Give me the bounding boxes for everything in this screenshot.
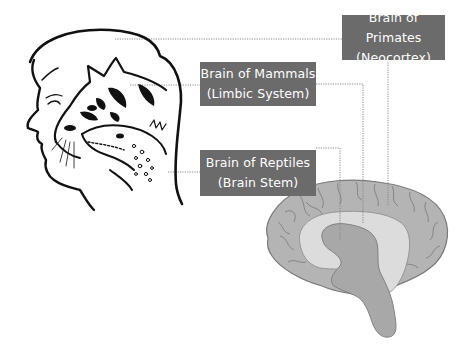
lizard-scales — [132, 144, 153, 181]
label-title: Brain of Mammals — [201, 64, 316, 84]
label-subtitle: (Limbic System) — [207, 84, 310, 104]
cat-stripes — [64, 84, 154, 131]
label-subtitle: (Neocortex) — [356, 48, 431, 68]
human-hairline — [42, 68, 58, 80]
label-brain-of-mammals: Brain of Mammals (Limbic System) — [200, 62, 316, 106]
head-illustration — [28, 30, 182, 210]
lizard-eye — [116, 134, 124, 139]
human-face-profile — [28, 60, 94, 210]
lizard-crest — [150, 120, 166, 130]
lizard-neck — [110, 170, 132, 190]
label-brain-of-reptiles: Brain of Reptiles (Brain Stem) — [200, 150, 316, 196]
label-brain-of-primates: Brain of Primates (Neocortex) — [342, 15, 445, 60]
label-title: Brain of Primates — [342, 8, 445, 48]
lizard-jaw — [82, 134, 134, 170]
brain-illustration — [267, 180, 448, 337]
label-subtitle: (Brain Stem) — [218, 173, 298, 193]
triune-brain-diagram: Brain of Primates (Neocortex) Brain of M… — [0, 0, 468, 355]
human-eye — [48, 101, 60, 104]
human-eyebrow — [46, 95, 62, 98]
label-title: Brain of Reptiles — [206, 153, 310, 173]
